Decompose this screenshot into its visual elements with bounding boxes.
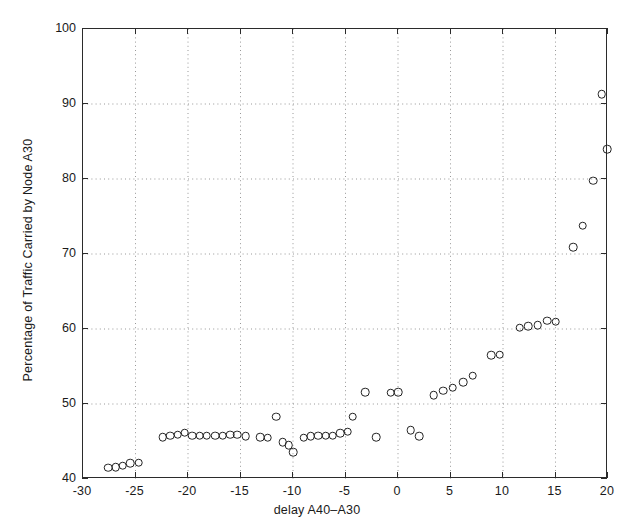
x-tick-mark — [187, 472, 188, 478]
data-point — [579, 221, 588, 230]
data-point — [264, 433, 273, 442]
data-point — [459, 378, 468, 387]
x-tick-mark — [187, 28, 188, 34]
x-tick-label: -5 — [339, 484, 351, 498]
data-point — [448, 383, 457, 392]
x-tick-label: -20 — [178, 484, 197, 498]
x-tick-label: -30 — [73, 484, 92, 498]
data-point — [603, 145, 612, 154]
data-point — [349, 412, 358, 421]
y-tick-label-text: 60 — [62, 321, 76, 335]
data-point — [203, 431, 212, 440]
x-tick-label: 5 — [446, 484, 453, 498]
y-tick-label: 50 — [76, 396, 90, 410]
data-point — [597, 90, 606, 99]
x-axis-title: delay A40–A30 — [0, 503, 634, 517]
y-tick-mark — [601, 328, 607, 329]
x-tick-mark — [502, 472, 503, 478]
y-tick-mark — [601, 478, 607, 479]
y-tick-label: 80 — [76, 171, 90, 185]
data-point — [415, 432, 424, 441]
x-tick-mark — [345, 472, 346, 478]
y-tick-label: 100 — [76, 21, 97, 35]
x-tick-mark — [135, 472, 136, 478]
data-point — [496, 350, 505, 359]
x-tick-mark — [397, 472, 398, 478]
x-tick-mark — [555, 472, 556, 478]
x-tick-label: 20 — [600, 484, 614, 498]
y-tick-label-text: 100 — [55, 21, 76, 35]
data-point — [524, 322, 533, 331]
x-tick-mark — [607, 28, 608, 34]
x-tick-label: 0 — [393, 484, 400, 498]
y-tick-mark — [601, 253, 607, 254]
data-point — [361, 388, 370, 397]
data-point — [551, 317, 560, 326]
x-tick-label: 10 — [495, 484, 509, 498]
data-point — [429, 391, 438, 400]
x-tick-label: 15 — [547, 484, 561, 498]
x-tick-mark — [502, 28, 503, 34]
x-tick-label: -10 — [283, 484, 302, 498]
x-tick-mark — [555, 28, 556, 34]
plot-area — [82, 28, 607, 478]
data-point — [439, 386, 448, 395]
y-tick-label-text: 70 — [62, 246, 76, 260]
data-point — [126, 459, 135, 468]
data-point — [272, 412, 281, 421]
x-tick-mark — [607, 472, 608, 478]
x-tick-mark — [345, 28, 346, 34]
x-tick-mark — [450, 472, 451, 478]
data-point — [394, 388, 403, 397]
x-tick-label: -15 — [230, 484, 249, 498]
y-tick-label-text: 90 — [62, 96, 76, 110]
y-tick-label: 40 — [76, 471, 90, 485]
data-point — [533, 321, 542, 330]
x-tick-mark — [135, 28, 136, 34]
y-tick-label: 60 — [76, 321, 90, 335]
data-point — [289, 448, 298, 457]
data-point — [241, 432, 250, 441]
data-point — [372, 433, 381, 442]
data-point — [343, 427, 352, 436]
data-point — [569, 243, 578, 252]
data-point — [589, 176, 598, 185]
data-point — [516, 323, 525, 332]
y-tick-label-text: 80 — [62, 171, 76, 185]
x-tick-label: -25 — [125, 484, 144, 498]
y-axis-title: Percentage of Traffic Carried by Node A3… — [21, 100, 35, 420]
data-points-layer — [83, 29, 606, 477]
y-tick-mark — [601, 403, 607, 404]
y-tick-mark — [601, 103, 607, 104]
y-tick-mark — [601, 28, 607, 29]
x-tick-mark — [450, 28, 451, 34]
data-point — [233, 430, 242, 439]
data-point — [134, 458, 143, 467]
y-tick-label-text: 50 — [62, 396, 76, 410]
scatter-plot-figure: -30-25-20-15-10-505101520405060708090100… — [0, 0, 634, 532]
y-tick-label: 90 — [76, 96, 90, 110]
data-point — [468, 371, 477, 380]
x-tick-mark — [292, 28, 293, 34]
data-point — [487, 351, 496, 360]
data-point — [543, 316, 552, 325]
data-point — [406, 426, 415, 435]
x-tick-mark — [397, 28, 398, 34]
y-tick-mark — [601, 178, 607, 179]
y-tick-label-text: 40 — [62, 471, 76, 485]
x-tick-mark — [240, 28, 241, 34]
x-tick-mark — [240, 472, 241, 478]
x-tick-mark — [292, 472, 293, 478]
y-tick-label: 70 — [76, 246, 90, 260]
